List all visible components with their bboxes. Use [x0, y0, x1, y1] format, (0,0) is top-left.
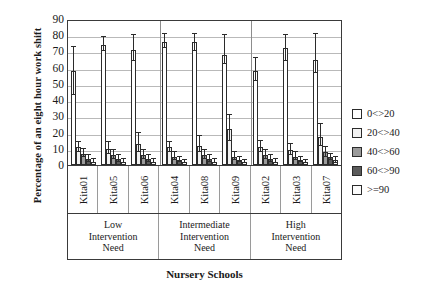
- category-label-cell: Kita08: [190, 166, 220, 213]
- legend-swatch: [352, 109, 362, 119]
- legend-item[interactable]: 60<>90: [352, 165, 430, 176]
- y-tick-label: 20: [53, 128, 65, 140]
- legend-label: 0<>20: [367, 108, 395, 119]
- error-bar-cap: [182, 162, 187, 163]
- category-label: Kita05: [108, 175, 119, 204]
- legend-item[interactable]: 0<>20: [352, 108, 430, 119]
- error-bar: [138, 133, 139, 152]
- error-bar: [164, 34, 165, 49]
- chart-figure: Percentage of an eight hour work shift 9…: [0, 0, 431, 298]
- bar-group-item: [303, 21, 308, 165]
- error-bar: [194, 34, 195, 52]
- error-bar: [320, 124, 321, 145]
- bar-cluster: [250, 21, 280, 165]
- category-label: Kita09: [229, 175, 240, 204]
- y-tick-label: 70: [53, 47, 65, 59]
- error-bar-cap: [333, 156, 338, 157]
- error-bar: [315, 34, 316, 73]
- category-label-cell: Kita01: [68, 166, 98, 213]
- category-label-band: Kita01Kita05Kita06Kita04Kita08Kita09Kita…: [67, 166, 342, 214]
- legend-swatch: [352, 128, 362, 138]
- legend-item[interactable]: 20<>40: [352, 127, 430, 138]
- error-bar: [199, 136, 200, 152]
- legend-label: >=90: [367, 184, 389, 195]
- category-label: Kita08: [199, 175, 210, 204]
- error-bar-cap: [242, 162, 247, 163]
- legend-label: 60<>90: [367, 165, 400, 176]
- group-separator: [251, 21, 252, 165]
- error-bar-cap: [303, 162, 308, 163]
- error-bar-cap: [212, 162, 217, 163]
- bar-cluster: [98, 21, 128, 165]
- legend-label: 20<>40: [367, 127, 400, 138]
- error-bar-cap: [212, 158, 217, 159]
- error-bar-cap: [273, 158, 278, 159]
- bar-cluster: [129, 21, 159, 165]
- category-label-cell: Kita09: [220, 166, 250, 213]
- error-bar-cap: [151, 158, 156, 159]
- error-bar-cap: [333, 162, 338, 163]
- error-bar-cap: [303, 159, 308, 160]
- category-label-cell: Kita03: [281, 166, 311, 213]
- bar-clusters: [68, 21, 341, 165]
- category-label-cell: Kita02: [251, 166, 281, 213]
- legend-label: 40<>60: [367, 146, 400, 157]
- category-label: Kita01: [77, 175, 88, 204]
- group-label-band: LowInterventionNeedIntermediateIntervent…: [67, 214, 342, 260]
- legend-swatch: [352, 166, 362, 176]
- bar-group-item: [273, 21, 278, 165]
- bar-group-item: [182, 21, 187, 165]
- group-label: IntermediateInterventionNeed: [159, 214, 250, 259]
- error-bar: [285, 35, 286, 61]
- legend-swatch: [352, 185, 362, 195]
- group-separator: [160, 21, 161, 165]
- error-bar: [73, 47, 74, 96]
- y-tick-label: 80: [53, 30, 65, 42]
- bar-group-item: [333, 21, 338, 165]
- legend: 0<>2020<>4040<>6060<>90>=90: [352, 108, 430, 203]
- group-label: LowInterventionNeed: [68, 214, 159, 259]
- error-bar-cap: [182, 159, 187, 160]
- error-bar: [229, 115, 230, 141]
- bar-cluster: [189, 21, 219, 165]
- y-tick-label: 10: [53, 144, 65, 156]
- category-label: Kita02: [260, 175, 271, 204]
- error-bar-cap: [91, 158, 96, 159]
- legend-item[interactable]: 40<>60: [352, 146, 430, 157]
- error-bar-cap: [91, 162, 96, 163]
- bar-cluster: [311, 21, 341, 165]
- error-bar-cap: [242, 159, 247, 160]
- bar-cluster: [220, 21, 250, 165]
- category-label: Kita04: [169, 175, 180, 204]
- plot-area: [67, 20, 342, 166]
- group-label: HighInterventionNeed: [251, 214, 341, 259]
- category-label: Kita06: [138, 175, 149, 204]
- error-bar: [224, 35, 225, 64]
- legend-item[interactable]: >=90: [352, 184, 430, 195]
- bar-group-item: [242, 21, 247, 165]
- bar-cluster: [159, 21, 189, 165]
- legend-swatch: [352, 147, 362, 157]
- error-bar-cap: [121, 162, 126, 163]
- category-label: Kita03: [290, 175, 301, 204]
- y-tick-label: 30: [53, 112, 65, 124]
- error-bar: [255, 58, 256, 81]
- y-tick-label: 0: [58, 160, 64, 172]
- category-label: Kita07: [321, 175, 332, 204]
- error-bar: [133, 35, 134, 61]
- error-bar: [103, 37, 104, 52]
- category-label-cell: Kita07: [312, 166, 341, 213]
- category-label-cell: Kita04: [159, 166, 189, 213]
- error-bar-cap: [151, 162, 156, 163]
- bar-group-item: [212, 21, 217, 165]
- error-bar-cap: [273, 162, 278, 163]
- category-label-cell: Kita05: [98, 166, 128, 213]
- error-bar-cap: [121, 158, 126, 159]
- x-axis-title: Nursery Schools: [67, 268, 342, 280]
- y-axis-tick-labels: 9080706050403020100: [34, 14, 64, 166]
- y-tick-label: 60: [53, 63, 65, 75]
- bar-group-item: [151, 21, 156, 165]
- category-label-cell: Kita06: [129, 166, 159, 213]
- bar-cluster: [68, 21, 98, 165]
- y-tick-label: 90: [53, 14, 65, 26]
